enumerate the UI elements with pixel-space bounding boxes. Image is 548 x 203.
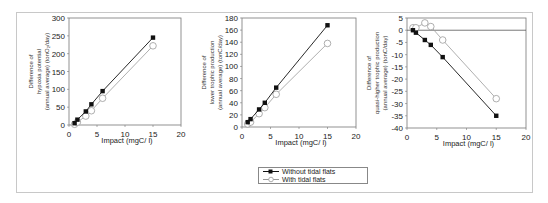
y-axis-label: Difference of — [28, 54, 34, 88]
x-tick-label: 20 — [177, 130, 186, 139]
y-tick-label: 160 — [225, 26, 239, 35]
y-tick-label: 300 — [52, 14, 66, 23]
y-tick-label: -25 — [391, 87, 403, 96]
y-tick-label: -20 — [391, 75, 403, 84]
y-tick-label: 5 — [399, 14, 404, 23]
x-tick-label: 0 — [67, 130, 72, 139]
y-tick-label: 20 — [229, 111, 238, 120]
x-tick-label: 0 — [405, 133, 410, 142]
y-tick-label: -35 — [391, 112, 403, 121]
data-point — [257, 107, 261, 111]
data-point — [89, 102, 93, 106]
y-tick-label: 60 — [229, 87, 238, 96]
y-tick-label: 0 — [399, 26, 404, 35]
data-point — [263, 101, 267, 105]
x-axis-label: Impact (mgC/ l) — [275, 138, 327, 147]
y-tick-label: 150 — [52, 68, 66, 77]
x-axis-label: Impact (mgC/ l) — [101, 136, 153, 145]
legend: Without tidal flats With tidal flats — [258, 167, 368, 184]
legend-label-with: With tidal flats — [282, 176, 326, 184]
data-point — [441, 55, 445, 59]
legend-label-without: Without tidal flats — [282, 168, 335, 176]
y-tick-label: 140 — [225, 38, 239, 47]
y-axis-label: (annual average) (tonO₂/day) — [44, 33, 50, 111]
data-point — [100, 89, 104, 93]
data-point — [494, 114, 498, 118]
y-tick-label: 0 — [61, 121, 66, 130]
data-point — [99, 95, 106, 102]
y-tick-label: -15 — [391, 63, 403, 72]
data-point — [151, 35, 155, 39]
y-tick-label: -5 — [396, 38, 404, 47]
legend-item-with: With tidal flats — [263, 176, 367, 184]
plot-area — [407, 18, 526, 128]
chart-2: 02040608010012014016018005101520Impact (… — [201, 14, 361, 147]
data-point — [273, 91, 280, 98]
x-tick-label: 5 — [268, 132, 273, 141]
plot-area — [69, 18, 181, 125]
y-axis-label: Difference of — [366, 56, 372, 90]
data-point — [248, 117, 252, 121]
y-tick-label: -30 — [391, 100, 403, 109]
x-tick-label: 0 — [240, 132, 245, 141]
y-tick-label: 0 — [234, 123, 239, 132]
data-point — [422, 20, 429, 27]
data-point — [325, 23, 329, 27]
data-point — [493, 95, 500, 102]
data-point — [423, 38, 427, 42]
y-tick-label: -10 — [391, 51, 403, 60]
y-axis-label: lower trophic production — [209, 41, 215, 105]
y-axis-label: (annual average) (tonC/day) — [382, 35, 388, 110]
chart-3: 50-5-10-15-20-25-30-35-4005101520Impact … — [366, 14, 531, 148]
data-point — [429, 43, 433, 47]
y-tick-label: 200 — [52, 50, 66, 59]
data-point — [324, 40, 331, 47]
data-point — [428, 23, 435, 30]
data-point — [88, 107, 95, 114]
y-tick-label: -40 — [391, 124, 403, 133]
data-point — [75, 117, 79, 121]
data-point — [150, 43, 157, 50]
x-tick-label: 5 — [95, 130, 100, 139]
y-axis-label: hypoxia potential — [36, 49, 42, 94]
x-axis-label: Impact (mgC/ l) — [443, 139, 495, 148]
y-tick-label: 100 — [225, 62, 239, 71]
y-axis-label: quasi-higher trophic production — [374, 32, 380, 114]
data-point — [274, 85, 278, 89]
data-point — [439, 37, 446, 44]
y-tick-label: 250 — [52, 32, 66, 41]
chart-1: 05010015020025030005101520Impact (mgC/ l… — [28, 14, 186, 145]
filled-square-marker-icon — [263, 168, 279, 175]
x-tick-label: 20 — [522, 133, 531, 142]
legend-item-without: Without tidal flats — [263, 168, 367, 176]
data-point — [84, 109, 88, 113]
y-tick-label: 180 — [225, 14, 239, 23]
y-tick-label: 40 — [229, 99, 238, 108]
y-axis-label: Difference of — [201, 55, 207, 89]
y-tick-label: 50 — [56, 103, 65, 112]
y-tick-label: 100 — [52, 85, 66, 94]
open-circle-marker-icon — [263, 176, 279, 183]
x-tick-label: 5 — [435, 133, 440, 142]
y-tick-label: 80 — [229, 75, 238, 84]
data-point — [414, 30, 418, 34]
x-tick-label: 20 — [352, 132, 361, 141]
y-tick-label: 120 — [225, 50, 239, 59]
y-axis-label: (annual average) (tonC/day) — [217, 35, 223, 110]
